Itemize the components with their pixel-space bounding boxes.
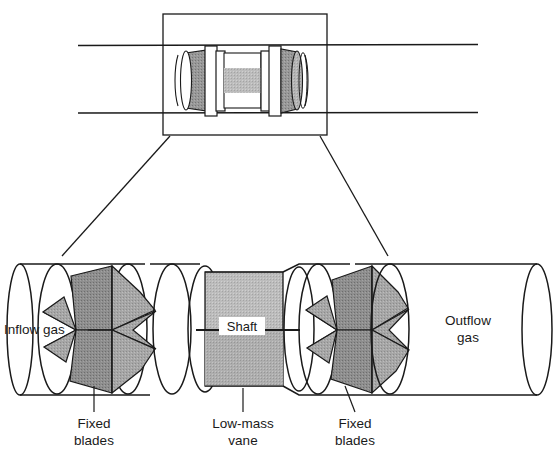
shaft-duct-left-ring — [153, 264, 191, 394]
overview-shaft-section — [224, 53, 261, 108]
overview-left-rotor-lip — [175, 55, 178, 106]
fixed-blades-right-label-line2: blades — [335, 433, 375, 448]
blade-left-lower-outer — [112, 330, 155, 393]
overview-right-flange-plate — [269, 46, 281, 116]
overview-left-flange-plate — [205, 46, 217, 116]
overview-right-rotor — [281, 49, 308, 113]
fixed-blades-right-assembly — [306, 266, 409, 393]
inflow-gas-label: Inflow gas — [4, 322, 65, 337]
outflow-gas-label-line2: gas — [457, 330, 479, 345]
callout-leader-lines — [62, 136, 388, 256]
blade-right-upper-inner — [332, 266, 372, 330]
leader-line-left — [62, 136, 170, 256]
low-mass-vane-label-line1: Low-mass — [212, 416, 274, 431]
shaft-label: Shaft — [227, 319, 258, 334]
fixed-blades-right-label-line1: Fixed — [338, 416, 371, 431]
leader-line-right — [320, 136, 388, 256]
outflow-duct-exit-ring — [522, 264, 552, 395]
turbine-flow-meter-diagram: Shaft — [0, 0, 557, 454]
outflow-gas-callout: Outflow gas — [445, 313, 491, 345]
low-mass-vane-label-line2: vane — [228, 433, 257, 448]
overview-left-flange — [205, 46, 225, 116]
blade-right-spike-upperfan — [306, 296, 337, 330]
blade-left-lower-inner — [70, 330, 112, 393]
blade-right-lower-inner — [331, 330, 372, 393]
fixed-blades-right-leader — [345, 386, 355, 412]
fixed-blades-left-label-line1: Fixed — [77, 416, 110, 431]
fixed-blades-left-label-line2: blades — [74, 433, 114, 448]
magnified-cutaway: Shaft — [4, 264, 552, 448]
blade-right-spike-lowerfan — [307, 330, 337, 363]
low-mass-vane-callout: Low-mass vane — [212, 388, 274, 448]
overview-right-rotor-face — [292, 51, 303, 110]
blade-right-lower-outer — [372, 330, 409, 393]
figure-canvas: Shaft — [0, 0, 557, 454]
overview-right-flange — [261, 46, 281, 116]
overview-shaft-vane — [224, 68, 261, 93]
low-mass-vane-shadow — [205, 330, 283, 386]
overview-left-rotor-face — [181, 51, 192, 110]
pipe-wall-top — [78, 45, 478, 46]
blade-left-upper-inner — [71, 266, 112, 330]
outflow-gas-label-line1: Outflow — [445, 313, 491, 328]
overview-assembly — [78, 14, 478, 135]
